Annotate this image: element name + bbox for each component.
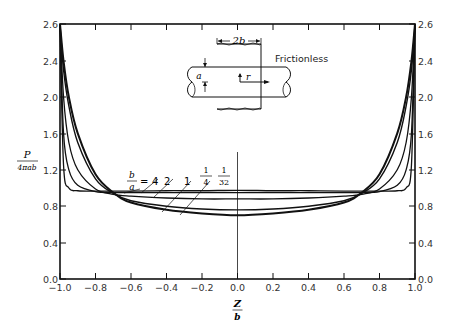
y-tick-label-right: 2.6 [418,19,433,30]
y-tick-label-right: 0.4 [418,238,433,249]
r-arrow-up [238,73,242,77]
legend-ratio-num: b [129,170,135,180]
dim-arrow-right [256,39,260,43]
axes: −1.0−0.8−0.6−0.4−0.20.00.20.40.60.81.00.… [43,19,433,294]
y-tick-label-left: 2.4 [43,56,58,67]
legend-entry-num: 1 [203,166,208,175]
y-axis-label-den: 4πab [17,163,37,172]
shaft-left-curl [192,82,195,97]
legend-entry: 2 [164,176,170,187]
y-tick-label-left: 0.4 [43,238,58,249]
y-tick-label-left: 1.6 [43,129,58,140]
shaft-right-break [286,67,291,97]
y-tick-label-right: 0.0 [418,274,433,285]
shaft-left-break [188,67,193,97]
shaft-right-curl [283,82,286,97]
x-tick-label: −0.8 [84,282,107,293]
x-tick-label: 0.2 [265,282,280,293]
y-axis-label-num: P [23,149,31,160]
y-tick-label-left: 1.2 [43,165,58,176]
radius-label: a [196,71,201,81]
y-tick-label-left: 2.6 [43,19,58,30]
x-axis-label-den: b [234,312,240,322]
x-tick-label: 0.4 [301,282,316,293]
x-tick-label: 0.8 [372,282,387,293]
x-axis-label-num: Z [233,298,242,309]
dim-arrow-left [218,39,222,43]
y-tick-label-right: 1.2 [418,165,433,176]
y-tick-label-right: 1.6 [418,129,433,140]
r-label: r [246,72,251,82]
frictionless-label: Frictionless [275,53,328,64]
chart: −1.0−0.8−0.6−0.4−0.20.00.20.40.60.81.00.… [0,0,454,328]
legend-entry-num: 1 [221,166,226,175]
x-tick-label: −0.2 [190,282,213,293]
y-tick-label-left: 2.0 [43,92,58,103]
y-tick-label-left: 0.0 [43,274,58,285]
a-arrow-bottom [203,82,207,86]
y-tick-label-right: 2.4 [418,56,433,67]
x-tick-label: 0.0 [230,282,245,293]
x-tick-label: −0.4 [155,282,178,293]
y-tick-label-right: 2.0 [418,92,433,103]
y-tick-label-right: 0.8 [418,201,433,212]
legend-entry-den: 32 [219,178,229,187]
r-arrow-right [264,80,270,84]
x-tick-label: 0.6 [336,282,351,293]
width-label: 2b [232,35,246,46]
a-arrow-top [203,63,207,67]
legend-equals: = [140,176,148,187]
frictionless-inset-diagram: 2bFrictionlessar [188,35,329,110]
y-tick-label-left: 0.8 [43,201,58,212]
x-tick-label: −0.6 [119,282,142,293]
